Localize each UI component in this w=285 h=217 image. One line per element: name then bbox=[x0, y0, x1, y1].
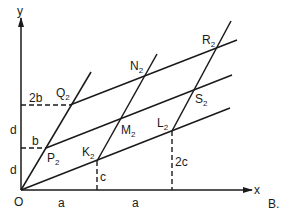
panel-label: B. bbox=[268, 197, 279, 211]
y-axis-label: y bbox=[17, 4, 23, 18]
point-L2: L2 bbox=[157, 116, 169, 132]
dim-a-second: a bbox=[132, 196, 139, 210]
origin-label: O bbox=[14, 195, 23, 209]
line-O-K-L bbox=[21, 108, 230, 190]
dim-c: c bbox=[100, 170, 106, 184]
point-K2: K2 bbox=[82, 145, 95, 161]
point-R2: R2 bbox=[202, 33, 216, 49]
dim-d-lower: d bbox=[10, 163, 17, 177]
point-S2: S2 bbox=[195, 92, 208, 108]
point-M2: M2 bbox=[121, 123, 136, 139]
x-axis-label: x bbox=[254, 183, 260, 197]
dim-b: b bbox=[32, 134, 39, 148]
dim-d-upper: d bbox=[10, 123, 17, 137]
dim-a-first: a bbox=[58, 196, 65, 210]
dim-2c: 2c bbox=[175, 155, 188, 169]
point-Q2: Q2 bbox=[56, 86, 70, 102]
line-Q-N-R bbox=[70, 40, 237, 105]
lattice-diagram: y x O B. 2b b d d a a c 2c P2 Q2 K2 M2 N… bbox=[0, 0, 285, 217]
point-N2: N2 bbox=[130, 59, 144, 75]
point-P2: P2 bbox=[47, 151, 60, 167]
dim-2b: 2b bbox=[29, 91, 43, 105]
